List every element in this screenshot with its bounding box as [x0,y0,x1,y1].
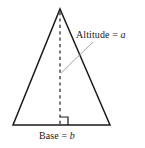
triangle-figure: Altitude = a Base = b [0,0,145,148]
base-label-prefix: Base = [39,130,70,141]
triangle-outline [13,9,110,125]
altitude-label: Altitude = a [76,29,126,40]
triangle-diagram-svg [0,0,145,148]
base-label-variable: b [70,130,75,141]
altitude-label-variable: a [121,29,126,40]
altitude-label-prefix: Altitude = [76,29,121,40]
base-label: Base = b [39,130,75,141]
right-angle-marker [60,117,68,125]
